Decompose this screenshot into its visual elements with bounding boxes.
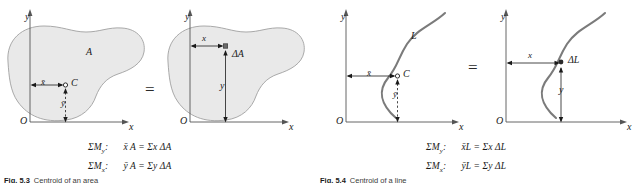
ybar-arrow-top-2 (395, 79, 399, 85)
area-element-marker (223, 44, 227, 48)
x-axis-arrow (122, 120, 129, 125)
caption-number-5-4: Fig. 5.4 (320, 176, 346, 183)
x-axis-arrow-4 (620, 120, 627, 125)
equation-row-mx-line: ΣMx: ȳL = Σy ΔL (426, 159, 506, 178)
y-arrow-top-2 (559, 67, 563, 73)
caption-text-5-4: Centroid of a line (346, 176, 407, 183)
x-axis-label-3: x (459, 121, 463, 132)
x-axis-label-2: x (289, 121, 293, 132)
curve-L (382, 13, 445, 118)
line-element-panel (504, 9, 627, 124)
ybar-label-2: ȳ (393, 89, 397, 99)
origin-label-4: O (496, 115, 503, 126)
x-axis-arrow-3 (452, 120, 459, 125)
xbar-arrow-right-2 (390, 74, 396, 78)
figure-centroid-of-a-line: y x O L C x̄ ȳ = y x O ΔL x y ΣMy: x̄L … (316, 0, 632, 183)
y-axis-label-2: y (185, 11, 189, 22)
line-element-marker (559, 60, 564, 65)
figure-centroid-of-an-area: y x O A C x̄ ȳ = y x O ΔA x y ΣMy: x̄ A… (0, 0, 316, 183)
y-dimension-label: y (220, 80, 224, 91)
centroid-label: C (71, 77, 78, 88)
moment-label-my-line: ΣMy: (426, 140, 459, 159)
y-dimension-label-2: y (559, 84, 563, 95)
moment-label-mx: ΣMx: (88, 159, 121, 178)
y-axis-label-4: y (501, 11, 505, 22)
x-axis-arrow-2 (282, 120, 289, 125)
equals-sign-area: = (145, 80, 155, 100)
line-equations: ΣMy: x̄L = Σx ΔL ΣMx: ȳL = Σy ΔL (426, 140, 506, 178)
x-arrow-left-2 (507, 61, 513, 65)
centroid-marker-2 (395, 74, 399, 78)
y-axis-label-3: y (341, 11, 345, 22)
area-region-label: A (86, 46, 92, 57)
y-axis-label: y (25, 11, 29, 22)
ybar-label: ȳ (61, 98, 65, 108)
x-dimension-label-2: x (528, 50, 532, 60)
moment-label-mx-line: ΣMx: (426, 159, 459, 178)
xbar-label-2: x̄ (367, 68, 371, 78)
x-axis-label-4: x (627, 121, 631, 132)
line-region-label: L (411, 30, 417, 41)
equation-expression-mx: ȳ A = Σy ΔA (123, 159, 171, 174)
xbar-arrow-left-2 (347, 74, 353, 78)
x-dimension-label: x (202, 33, 206, 43)
xbar-label: x̄ (41, 77, 45, 87)
area-blob-shape (8, 26, 144, 121)
curve-L-2 (542, 13, 605, 118)
caption-text-5-3: Centroid of an area (30, 176, 98, 183)
moment-label-my: ΣMy: (88, 140, 121, 159)
centroid-label-2: C (403, 68, 410, 79)
origin-label: O (20, 115, 27, 126)
origin-label-2: O (180, 115, 187, 126)
x-axis-label: x (129, 121, 133, 132)
area-element-panel (168, 9, 304, 124)
origin-label-3: O (336, 115, 343, 126)
equation-expression-mx-line: ȳL = Σy ΔL (461, 159, 506, 174)
figure-caption-5-4: Fig. 5.4Centroid of a line (320, 176, 407, 183)
line-centroid-panel (344, 9, 459, 124)
area-element-label: ΔA (232, 48, 244, 59)
centroid-marker (63, 83, 67, 87)
line-element-label: ΔL (568, 54, 579, 65)
equals-sign-line: = (468, 58, 478, 78)
area-equations: ΣMy: x̄ A = Σx ΔA ΣMx: ȳ A = Σy ΔA (88, 140, 171, 178)
figure-caption-5-3: Fig. 5.3Centroid of an area (4, 176, 98, 183)
area-blob-shape-2 (168, 26, 304, 121)
equation-expression-my: x̄ A = Σx ΔA (123, 140, 171, 155)
equation-row-mx: ΣMx: ȳ A = Σy ΔA (88, 159, 171, 178)
equation-row-my: ΣMy: x̄ A = Σx ΔA (88, 140, 171, 159)
caption-number-5-3: Fig. 5.3 (4, 176, 30, 183)
area-figure-graphics (0, 0, 316, 140)
equation-row-my-line: ΣMy: x̄L = Σx ΔL (426, 140, 506, 159)
equation-expression-my-line: x̄L = Σx ΔL (461, 140, 506, 155)
area-centroid-panel (8, 9, 144, 124)
